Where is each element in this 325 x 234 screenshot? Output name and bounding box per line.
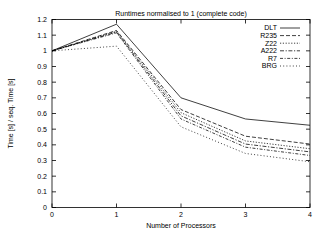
y-tick-label: 0.3	[37, 157, 47, 164]
y-tick-label: 0.7	[37, 94, 47, 101]
legend-label-brg: BRG	[262, 62, 277, 69]
y-tick-label: 0.5	[37, 126, 47, 133]
chart-canvas: 00.10.20.30.40.50.60.70.80.911.11.201234…	[0, 0, 325, 234]
y-tick-label: 1.1	[37, 32, 47, 39]
x-tick-label: 0	[50, 211, 54, 218]
chart-figure: 00.10.20.30.40.50.60.70.80.911.11.201234…	[0, 0, 325, 234]
legend-label-a222: A222	[261, 47, 277, 54]
x-tick-label: 4	[308, 211, 312, 218]
y-tick-label: 0.9	[37, 63, 47, 70]
legend-label-z22: Z22	[265, 40, 277, 47]
y-tick-label: 1.2	[37, 16, 47, 23]
y-axis-title: Time [s] / seq. Time [s]	[7, 78, 15, 148]
x-tick-label: 3	[244, 211, 248, 218]
legend-label-r235: R235	[260, 32, 277, 39]
x-tick-label: 2	[179, 211, 183, 218]
y-tick-label: 0	[43, 204, 47, 211]
legend-label-r7: R7	[268, 55, 277, 62]
legend-label-dlt: DLT	[264, 24, 277, 31]
x-tick-label: 1	[115, 211, 119, 218]
y-tick-label: 1	[43, 47, 47, 54]
y-tick-label: 0.4	[37, 141, 47, 148]
y-tick-label: 0.8	[37, 79, 47, 86]
x-axis-title: Number of Processors	[146, 222, 216, 229]
y-tick-label: 0.2	[37, 173, 47, 180]
y-tick-label: 0.6	[37, 110, 47, 117]
chart-title: Runtimes normalised to 1 (complete code)	[115, 10, 247, 18]
y-tick-label: 0.1	[37, 188, 47, 195]
